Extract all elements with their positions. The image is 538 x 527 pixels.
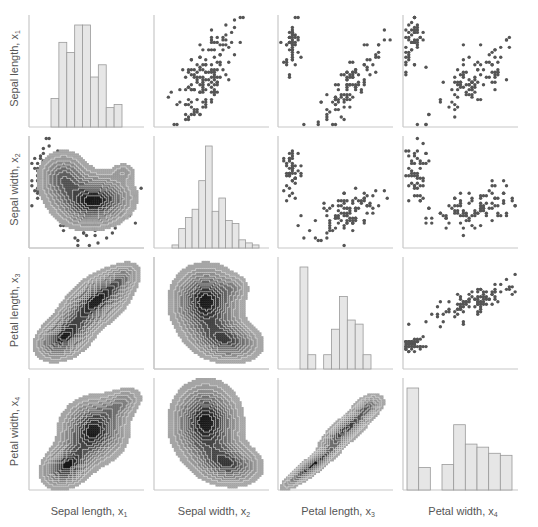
kde-density-cell [243,361,245,363]
row-label-text: Sepal width, x [8,157,20,225]
scatter-point [470,295,473,298]
scatter-point [439,325,442,328]
scatter-point [430,313,433,316]
col-label-text: Petal width, x [428,505,493,517]
scatter-point [47,144,50,147]
histogram-bar [192,209,199,248]
scatter-point [447,300,450,303]
scatter-point [442,81,445,84]
histogram-bar [407,388,419,490]
scatter-point [213,88,216,91]
scatter-point [351,71,354,74]
scatter-point [294,197,297,200]
scatter-point [430,221,433,224]
scatter-point [210,28,213,31]
scatter-point [499,46,502,49]
scatter-point [296,169,299,172]
scatter-point [421,162,424,165]
histogram-bar [339,297,347,369]
scatter-point [496,214,499,217]
scatter-point [513,290,516,293]
scatter-point [195,98,198,101]
kde-density-cell [77,484,79,486]
scatter-point [294,164,297,167]
scatter-point [467,293,470,296]
scatter-point [342,224,345,227]
scatter-point [383,28,386,31]
scatter-point [342,118,345,121]
histogram-bar [172,245,179,248]
scatter-point [496,61,499,64]
scatter-point [508,36,511,39]
scatter-point [467,93,470,96]
scatter-point [377,43,380,46]
scatter-point [456,105,459,108]
scatter-point [407,323,410,326]
histogram-bar [363,355,371,369]
scatter-point [334,83,337,86]
scatter-point [476,313,479,316]
scatter-point [470,88,473,91]
kde-contour-panel [154,378,269,490]
scatter-point [360,90,363,93]
histogram-panel [278,257,393,369]
col-label-sepal-width: Sepal width, x2 [149,505,279,518]
scatter-point [288,41,291,44]
scatter-point [224,33,227,36]
scatter-point [496,300,499,303]
scatter-point [363,192,366,195]
histogram-bar [179,229,186,248]
scatter-point [291,31,294,34]
histogram-bar [252,245,259,248]
scatter-point [340,115,343,118]
kde-density-cell [304,480,306,482]
scatter-point [493,81,496,84]
scatter-point [450,100,453,103]
kde-contour-panel [29,257,144,369]
scatter-point [365,58,368,61]
scatter-point [465,71,468,74]
kde-density-cell [83,480,85,482]
scatter-point [410,48,413,51]
scatter-point [473,85,476,88]
kde-density-cell [126,217,128,219]
scatter-point [465,219,468,222]
scatter-point [479,310,482,313]
scatter-point [363,199,366,202]
scatter-point [479,288,482,291]
scatter-point [134,221,137,224]
scatter-panel [403,136,518,248]
scatter-point [187,98,190,101]
pair-plot-canvas [0,0,538,527]
scatter-point [198,43,201,46]
scatter-point [351,95,354,98]
col-label-subscript: 3 [371,511,375,518]
scatter-point [184,88,187,91]
scatter-point [404,73,407,76]
scatter-point [404,174,407,177]
scatter-point [45,137,48,140]
scatter-point [296,51,299,54]
scatter-panel [154,15,269,127]
scatter-point [453,310,456,313]
histogram-bar [90,77,98,127]
scatter-point [331,204,334,207]
kde-density-cell [300,482,302,484]
scatter-point [210,85,213,88]
scatter-point [427,159,430,162]
scatter-point [424,66,427,69]
scatter-point [342,93,345,96]
scatter-point [334,103,337,106]
scatter-point [184,103,187,106]
scatter-point [404,28,407,31]
scatter-point [421,335,424,338]
scatter-point [195,76,198,79]
scatter-point [210,76,213,79]
kde-density-cell [73,486,75,488]
scatter-point [354,68,357,71]
scatter-point [462,310,465,313]
scatter-point [221,48,224,51]
scatter-point [224,73,227,76]
scatter-point [368,202,371,205]
scatter-point [371,63,374,66]
